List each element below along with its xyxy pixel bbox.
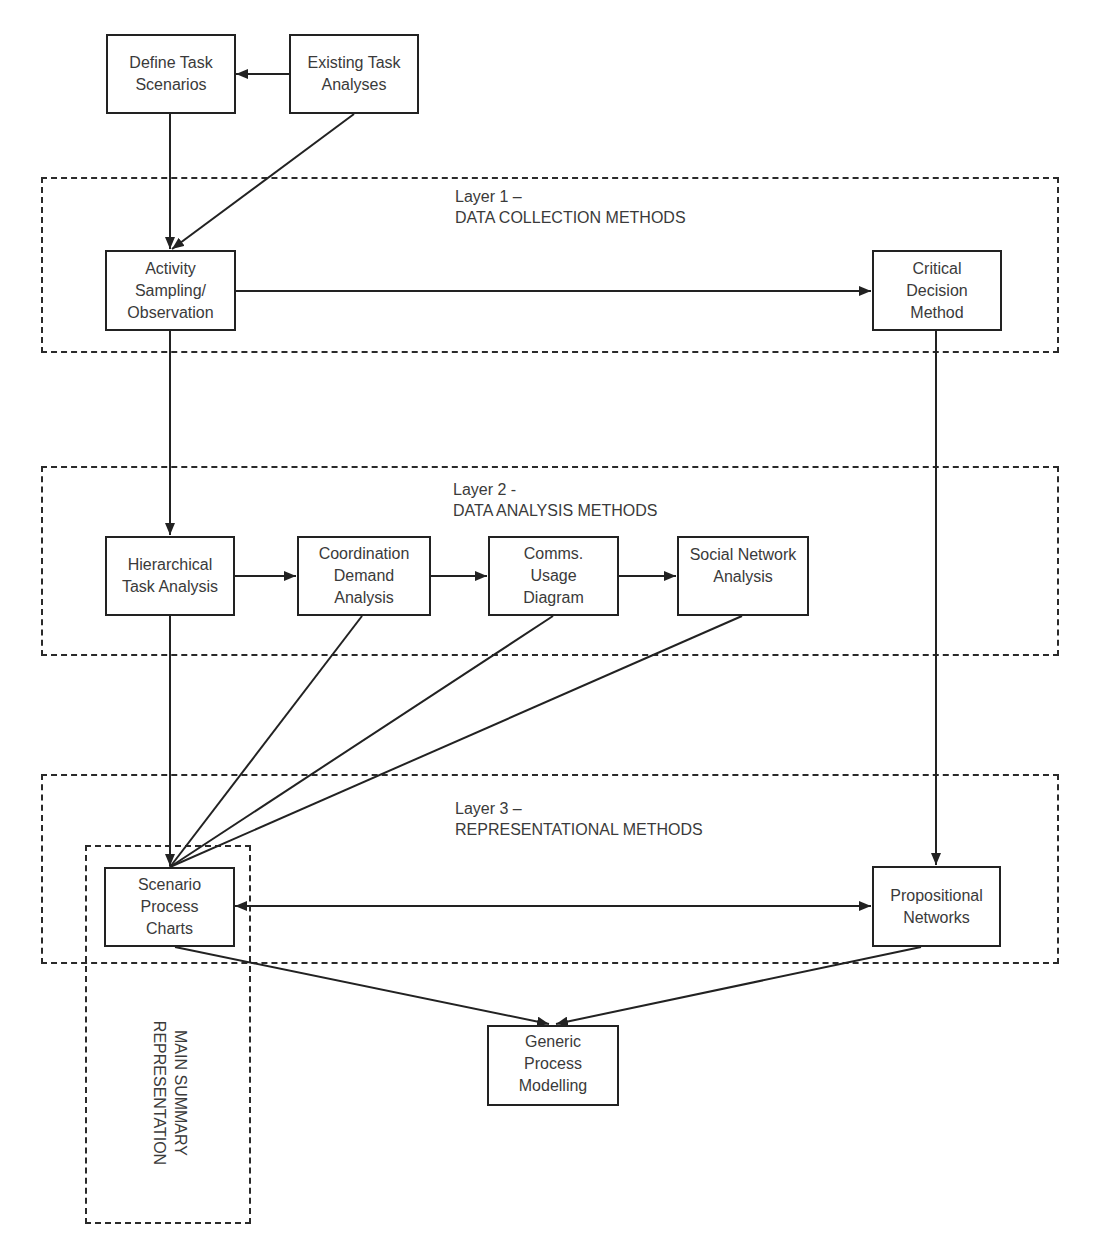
node-scenario-process-charts: Scenario Process Charts	[104, 867, 235, 947]
node-existing-task-analyses: Existing Task Analyses	[289, 34, 419, 114]
edge-comms-to-scenario	[170, 616, 553, 867]
node-comms-usage-diagram: Comms. Usage Diagram	[488, 536, 619, 616]
node-coordination-demand-analysis: Coordination Demand Analysis	[297, 536, 431, 616]
node-propositional-networks: Propositional Networks	[872, 866, 1001, 947]
edge-sna-to-scenario	[170, 616, 742, 867]
edge-propositional-to-generic	[556, 947, 921, 1024]
node-critical-decision-method: Critical Decision Method	[872, 250, 1002, 331]
node-activity-sampling: Activity Sampling/ Observation	[105, 250, 236, 331]
edge-scenario-to-generic	[175, 947, 549, 1024]
edge-cda-to-scenario	[170, 616, 362, 867]
node-generic-process-modelling: Generic Process Modelling	[487, 1025, 619, 1106]
diagram-canvas: Layer 1 – DATA COLLECTION METHODS Layer …	[0, 0, 1094, 1254]
node-hierarchical-task-analysis: Hierarchical Task Analysis	[105, 536, 235, 616]
node-social-network-analysis: Social Network Analysis	[677, 536, 809, 616]
node-define-task-scenarios: Define Task Scenarios	[106, 34, 236, 114]
edge-existing-to-activity	[172, 114, 354, 249]
